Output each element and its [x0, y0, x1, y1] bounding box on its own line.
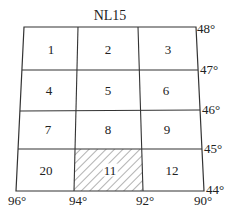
lat-label-46: 46°	[202, 103, 220, 116]
cell-9: 9	[164, 123, 171, 136]
cell-20: 20	[40, 164, 53, 177]
cell-6: 6	[163, 84, 170, 97]
cell-2: 2	[105, 43, 112, 56]
cell-12: 12	[166, 164, 179, 177]
sheet-title: NL15	[94, 8, 127, 24]
cell-1: 1	[48, 43, 55, 56]
row-line-46	[20, 110, 200, 111]
lon-label-96: 96°	[8, 194, 26, 207]
cell-11: 11	[103, 164, 118, 177]
cell-4: 4	[46, 84, 53, 97]
lat-label-48: 48°	[197, 22, 215, 35]
lon-label-94: 94°	[69, 194, 87, 207]
lon-label-90: 90°	[194, 194, 212, 207]
cell-8: 8	[105, 123, 112, 136]
lat-label-45: 45°	[204, 142, 222, 155]
cell-5: 5	[105, 84, 112, 97]
lon-label-92: 92°	[136, 194, 154, 207]
cell-3: 3	[165, 43, 172, 56]
lat-label-47: 47°	[200, 63, 218, 76]
cell-7: 7	[45, 123, 52, 136]
